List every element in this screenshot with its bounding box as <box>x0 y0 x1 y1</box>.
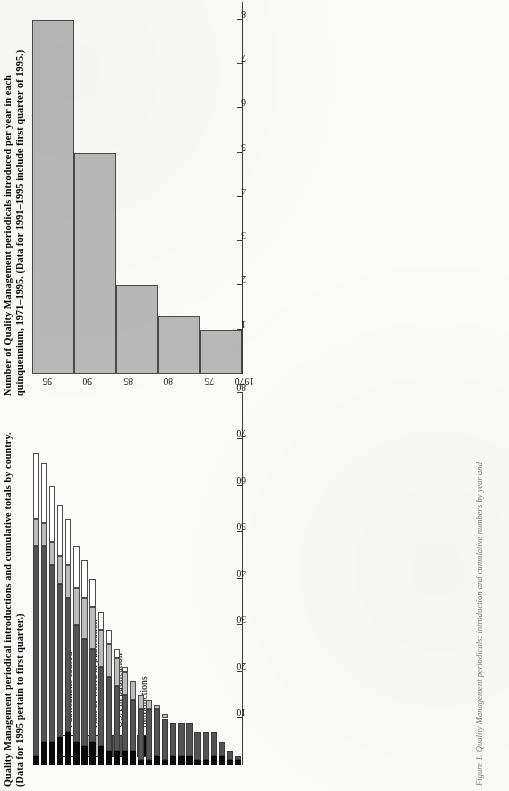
bar-segment-usa[interactable] <box>178 723 184 756</box>
bar-segment-usa[interactable] <box>106 677 112 751</box>
bar-segment-row[interactable] <box>49 542 55 565</box>
bar-segment-row[interactable] <box>98 630 104 667</box>
stacked-bar[interactable] <box>203 393 209 765</box>
stacked-bar[interactable] <box>154 393 160 765</box>
bar-segment-row[interactable] <box>41 523 47 546</box>
bar-segment-row[interactable] <box>130 681 136 700</box>
bar-segment-row[interactable] <box>89 607 95 649</box>
bar-segment-ceased[interactable] <box>73 546 79 588</box>
bar-segment-row[interactable] <box>114 658 120 686</box>
bar-segment-intro[interactable] <box>162 760 168 765</box>
bar-segment-usa[interactable] <box>235 756 241 761</box>
bar-segment-ceased[interactable] <box>65 519 71 566</box>
bar-segment-usa[interactable] <box>162 719 168 761</box>
quinquennium-bar[interactable] <box>116 285 157 374</box>
stacked-bar[interactable] <box>130 393 136 765</box>
bar-segment-ceased[interactable] <box>114 649 120 658</box>
bar-segment-usa[interactable] <box>33 546 39 755</box>
bar-segment-usa[interactable] <box>219 742 225 756</box>
bar-segment-ceased[interactable] <box>106 630 112 644</box>
stacked-bar[interactable] <box>98 393 104 765</box>
bar-segment-ceased[interactable] <box>41 463 47 523</box>
bar-segment-row[interactable] <box>122 672 128 695</box>
quinquennium-bar[interactable] <box>74 153 115 374</box>
bar-segment-intro[interactable] <box>194 760 200 765</box>
bar-segment-usa[interactable] <box>57 584 63 737</box>
bar-segment-ceased[interactable] <box>33 453 39 518</box>
bar-segment-intro[interactable] <box>122 751 128 765</box>
bar-segment-usa[interactable] <box>227 751 233 760</box>
stacked-bar[interactable] <box>178 393 184 765</box>
bar-segment-row[interactable] <box>73 588 79 625</box>
stacked-bar[interactable] <box>122 393 128 765</box>
bar-segment-row[interactable] <box>106 644 112 677</box>
stacked-bar[interactable] <box>227 393 233 765</box>
bar-segment-usa[interactable] <box>194 732 200 760</box>
stacked-bar[interactable] <box>33 393 39 765</box>
bar-segment-ceased[interactable] <box>57 505 63 556</box>
stacked-bar[interactable] <box>162 393 168 765</box>
bar-segment-usa[interactable] <box>211 732 217 755</box>
bar-segment-usa[interactable] <box>138 709 144 760</box>
bar-segment-intro[interactable] <box>170 756 176 765</box>
bar-segment-intro[interactable] <box>57 737 63 765</box>
bar-segment-intro[interactable] <box>186 756 192 765</box>
stacked-bar[interactable] <box>114 393 120 765</box>
stacked-bar[interactable] <box>106 393 112 765</box>
quinquennium-bar[interactable] <box>158 316 199 374</box>
stacked-bar[interactable] <box>186 393 192 765</box>
bar-segment-ceased[interactable] <box>81 560 87 597</box>
bar-segment-row[interactable] <box>81 598 87 640</box>
stacked-bar[interactable] <box>49 393 55 765</box>
bar-segment-usa[interactable] <box>170 723 176 756</box>
bar-segment-row[interactable] <box>138 695 144 709</box>
stacked-bar[interactable] <box>73 393 79 765</box>
bar-segment-intro[interactable] <box>65 732 71 765</box>
bar-segment-intro[interactable] <box>98 746 104 765</box>
bar-segment-row[interactable] <box>65 565 71 598</box>
bar-segment-row[interactable] <box>57 556 63 584</box>
bar-segment-row[interactable] <box>146 700 152 709</box>
bar-segment-usa[interactable] <box>146 709 152 760</box>
stacked-bar[interactable] <box>41 393 47 765</box>
stacked-bar[interactable] <box>146 393 152 765</box>
bar-segment-usa[interactable] <box>41 546 47 741</box>
bar-segment-usa[interactable] <box>49 565 55 742</box>
bar-segment-intro[interactable] <box>49 742 55 765</box>
bar-segment-intro[interactable] <box>146 760 152 765</box>
bar-segment-intro[interactable] <box>89 742 95 765</box>
bar-segment-intro[interactable] <box>41 742 47 765</box>
bar-segment-usa[interactable] <box>89 649 95 742</box>
bar-segment-row[interactable] <box>154 705 160 710</box>
quinquennium-bar[interactable] <box>32 20 73 374</box>
stacked-bar[interactable] <box>211 393 217 765</box>
bar-segment-usa[interactable] <box>81 639 87 746</box>
bar-segment-usa[interactable] <box>114 686 120 751</box>
bar-segment-row[interactable] <box>162 714 168 719</box>
bar-segment-ceased[interactable] <box>89 579 95 607</box>
quinquennium-bar[interactable] <box>200 330 241 374</box>
bar-segment-intro[interactable] <box>154 756 160 765</box>
bar-segment-intro[interactable] <box>81 746 87 765</box>
stacked-bar[interactable] <box>138 393 144 765</box>
stacked-bar[interactable] <box>57 393 63 765</box>
bar-segment-intro[interactable] <box>33 756 39 765</box>
bar-segment-usa[interactable] <box>73 626 79 742</box>
bar-segment-usa[interactable] <box>203 732 209 760</box>
bar-segment-intro[interactable] <box>178 756 184 765</box>
bar-segment-intro[interactable] <box>211 756 217 765</box>
bar-segment-intro[interactable] <box>219 756 225 765</box>
bar-segment-intro[interactable] <box>203 760 209 765</box>
stacked-bar[interactable] <box>219 393 225 765</box>
bar-segment-ceased[interactable] <box>122 667 128 672</box>
bar-segment-usa[interactable] <box>98 667 104 746</box>
bar-segment-usa[interactable] <box>130 700 136 751</box>
bar-segment-usa[interactable] <box>65 598 71 733</box>
stacked-bar[interactable] <box>170 393 176 765</box>
bar-segment-intro[interactable] <box>227 760 233 765</box>
bar-segment-ceased[interactable] <box>49 486 55 542</box>
stacked-bar[interactable] <box>89 393 95 765</box>
bar-segment-row[interactable] <box>33 519 39 547</box>
stacked-bar[interactable] <box>235 393 241 765</box>
bar-segment-intro[interactable] <box>106 751 112 765</box>
